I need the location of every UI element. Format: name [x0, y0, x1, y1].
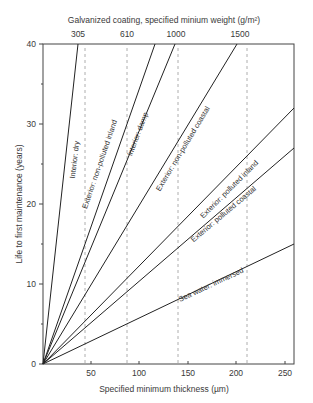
- series-labels: Interior: dry Exterior: non-polluted inl…: [68, 104, 260, 303]
- y-tick-label: 0: [31, 359, 36, 369]
- x-tick-label: 250: [278, 368, 292, 378]
- top-tick-label: 610: [120, 29, 134, 39]
- top-axis-title: Galvanized coating, specified minium wei…: [68, 15, 260, 25]
- x-tick-label: 150: [181, 368, 195, 378]
- y-tick-label: 10: [27, 279, 37, 289]
- label-sea-water-immersed: Sea water: immersed: [177, 266, 245, 304]
- coating-life-chart: Galvanized coating, specified minium wei…: [0, 0, 313, 403]
- x-tick-label: 200: [229, 368, 243, 378]
- label-exterior-nonpolluted-coastal: Exterior: non-polluted coastal: [154, 104, 212, 192]
- line-interior-damp: [43, 44, 175, 364]
- reference-lines: [85, 48, 247, 364]
- top-tick-label: 305: [71, 29, 85, 39]
- label-interior-dry: Interior: dry: [68, 140, 82, 179]
- y-tick-label: 30: [27, 119, 37, 129]
- y-tick-label: 40: [27, 39, 37, 49]
- y-tick-label: 20: [27, 199, 37, 209]
- y-axis: 40 30 20 10 0: [27, 39, 43, 369]
- x-tick-label: 100: [132, 368, 146, 378]
- top-tick-label: 1000: [167, 29, 186, 39]
- line-sea-water-immersed: [43, 244, 294, 364]
- x-tick-label: 50: [86, 368, 96, 378]
- y-axis-title: Life to first maintenance (years): [14, 144, 24, 263]
- line-interior-dry: [43, 44, 78, 364]
- x-axis-title: Specified minimum thickness (µm): [99, 384, 229, 394]
- top-tick-label: 1500: [231, 29, 250, 39]
